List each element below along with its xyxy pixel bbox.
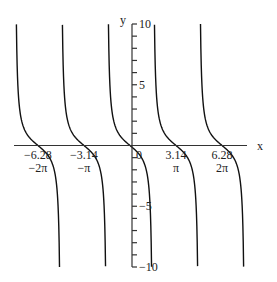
x-tick-label: −6.28 [24,148,52,162]
x-axis-label: x [257,139,263,153]
x-tick-sublabel: −2π [29,161,48,175]
x-tick-sublabel: π [173,161,179,175]
y-axis-label: y [120,13,126,27]
tangent-chart: 105−5−10 −6.28−2π−3.14−π03.14π6.282π x y [0,0,277,282]
y-tick-label: 5 [139,78,145,92]
x-tick-labels: −6.28−2π−3.14−π03.14π6.282π [24,148,232,175]
y-tick-label: −5 [139,199,152,213]
y-tick-label: −10 [139,260,158,274]
x-tick-label: 6.28 [212,148,233,162]
x-tick-label: 3.14 [166,148,187,162]
x-tick-sublabel: −π [78,161,91,175]
x-tick-label: −3.14 [70,148,98,162]
x-tick-sublabel: 2π [216,161,228,175]
x-tick-label: 0 [136,148,142,162]
y-tick-label: 10 [139,17,151,31]
